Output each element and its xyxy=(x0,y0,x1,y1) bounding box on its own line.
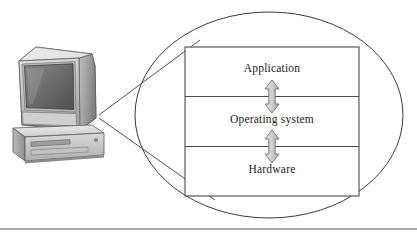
layer-label-application: Application xyxy=(185,62,359,74)
pc-case-power-led xyxy=(94,138,97,141)
monitor-side-face xyxy=(79,54,96,131)
layer-label-hardware: Hardware xyxy=(185,163,359,175)
figure-container: Application Operating system Hardware xyxy=(0,0,417,236)
desktop-computer-illustration xyxy=(13,47,104,164)
layer-label-operating-system: Operating system xyxy=(185,113,359,125)
monitor-bezel-bottom xyxy=(22,112,77,126)
